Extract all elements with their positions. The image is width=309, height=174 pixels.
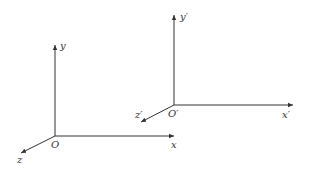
z-axis-label: z [16,154,23,165]
z-prime-axis-label: z′ [134,109,143,120]
y-axis-label: y [59,40,66,51]
x-prime-axis-label: x′ [282,109,291,120]
diagram-canvas: y x z O y′ x′ z′ O′ [0,0,309,174]
x-axis-label: x [171,139,177,150]
origin-label: O [51,139,59,150]
origin-prime-label: O′ [168,108,179,119]
y-prime-axis-label: y′ [179,11,189,22]
frame-original: y x z O [16,40,177,165]
frame-primed: y′ x′ z′ O′ [134,11,293,122]
z-axis [21,136,55,153]
